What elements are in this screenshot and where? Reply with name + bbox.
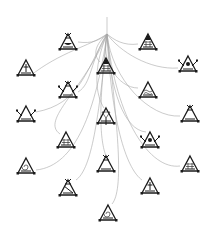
triangle-glyph-icon xyxy=(97,155,116,173)
triangle-glyph-icon xyxy=(59,33,78,51)
triangle-glyph-icon xyxy=(141,178,160,195)
triangle-glyph-icon xyxy=(139,34,158,51)
edge-to-E xyxy=(107,34,178,68)
glyph-tree-diagram xyxy=(0,0,215,233)
node-group xyxy=(16,33,200,222)
edge-to-Q xyxy=(107,34,142,180)
triangle-glyph-icon xyxy=(17,158,36,175)
triangle-glyph-icon xyxy=(140,132,160,149)
edge-to-J xyxy=(107,34,180,116)
triangle-glyph-icon xyxy=(99,205,118,222)
edge-to-C xyxy=(30,34,107,76)
triangle-glyph-icon xyxy=(59,179,78,197)
triangle-glyph-icon xyxy=(97,108,116,125)
triangle-glyph-icon xyxy=(16,106,36,123)
edge-to-H xyxy=(36,34,107,112)
triangle-glyph-icon xyxy=(181,105,200,123)
edge-to-P xyxy=(76,34,107,180)
triangle-glyph-icon xyxy=(178,56,198,73)
triangle-glyph-icon xyxy=(181,156,200,173)
edge-to-B xyxy=(107,34,138,44)
triangle-glyph-icon xyxy=(139,82,158,99)
